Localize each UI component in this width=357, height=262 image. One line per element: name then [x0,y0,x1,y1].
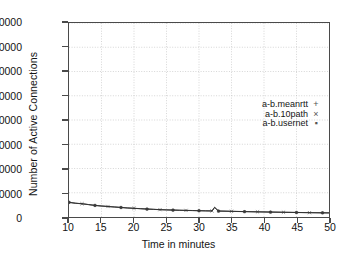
x-tick-mark-8 [329,218,330,223]
series-marker [243,211,245,213]
y-tick-label-0: 0 [0,212,22,224]
x-tick-mark-6 [264,218,265,223]
x-tick-mark-2 [133,218,134,223]
chart-figure: Number of Active Connections Time in min… [0,0,357,262]
legend-item-2: a-b.usernet▪ [232,119,324,129]
series-marker [172,209,174,211]
series-marker [295,211,297,213]
y-tick-label-4: 40000 [0,114,22,126]
y-tick-label-6: 60000 [0,65,22,77]
x-axis-title: Time in minutes [0,238,357,250]
series-marker [146,208,148,210]
y-tick-label-5: 50000 [0,90,22,102]
series-marker [94,204,96,206]
y-tick-label-2: 20000 [0,163,22,175]
y-tick-label-1: 10000 [0,188,22,200]
series-marker [269,211,271,213]
x-tick-mark-5 [231,218,232,223]
y-axis-title: Number of Active Connections [27,29,39,219]
series-marker [321,212,323,214]
x-tick-mark-3 [166,218,167,223]
y-tick-label-7: 70000 [0,41,22,53]
x-tick-mark-7 [297,218,298,223]
legend: a-b.meanrtt+a-b.10path×a-b.usernet▪ [232,100,324,129]
legend-label-2: a-b.usernet [262,119,308,129]
series-marker [198,210,200,212]
series-marker [69,201,70,203]
legend-marker-icon-2: ▪ [308,119,324,129]
y-tick-label-8: 80000 [0,16,22,28]
series-marker [120,206,122,208]
y-tick-label-3: 30000 [0,139,22,151]
x-tick-mark-4 [198,218,199,223]
x-tick-mark-1 [100,218,101,223]
series-marker [217,210,219,212]
x-tick-mark-0 [67,218,68,223]
